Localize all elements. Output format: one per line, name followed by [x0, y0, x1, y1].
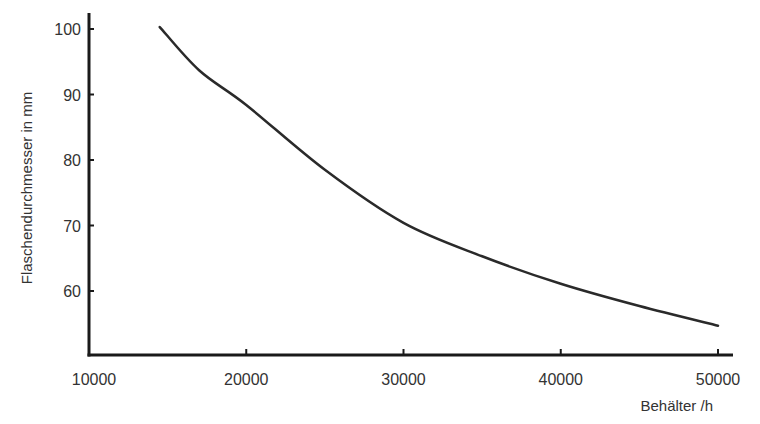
y-tick-label: 100 — [54, 21, 81, 38]
ticks: 607080901001000020000300004000050000 — [54, 21, 740, 388]
x-tick-label: 10000 — [72, 371, 117, 388]
series — [160, 27, 718, 326]
y-tick-label: 90 — [63, 87, 81, 104]
y-axis-title: Flaschendurchmesser in mm — [18, 92, 35, 285]
x-tick-label: 20000 — [224, 371, 269, 388]
x-axis-title: Behälter /h — [640, 397, 713, 414]
chart: 607080901001000020000300004000050000 Fla… — [0, 0, 760, 424]
y-tick-label: 60 — [63, 283, 81, 300]
y-tick-label: 70 — [63, 218, 81, 235]
x-tick-label: 50000 — [696, 371, 741, 388]
x-tick-label: 40000 — [539, 371, 584, 388]
x-tick-label: 30000 — [381, 371, 426, 388]
y-tick-label: 80 — [63, 152, 81, 169]
series-line — [160, 27, 718, 326]
